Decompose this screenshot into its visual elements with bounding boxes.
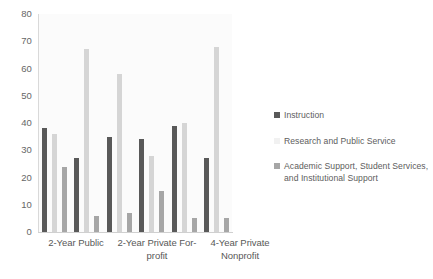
legend-swatch-icon (274, 163, 280, 169)
legend-item[interactable]: Instruction (274, 110, 432, 122)
legend-swatch-icon (274, 138, 280, 144)
y-axis-tick-label: 50 (8, 91, 32, 101)
legend-label: Instruction (284, 110, 324, 122)
bar (172, 126, 177, 232)
x-axis-category-label: 2-Year Private For-profit (114, 236, 200, 262)
y-axis-tick-label: 20 (8, 173, 32, 183)
bar (107, 137, 112, 232)
y-axis-tick-label: 80 (8, 9, 32, 19)
y-axis-tick-label: 30 (8, 145, 32, 155)
bar (117, 74, 122, 232)
bar (139, 139, 144, 232)
legend-label: Academic Support, Student Services, and … (284, 161, 432, 184)
legend-swatch-icon (274, 112, 280, 118)
bar (52, 134, 57, 232)
bar (42, 128, 47, 232)
bar (204, 158, 209, 232)
y-axis-tick-label: 0 (8, 227, 32, 237)
bar (224, 218, 229, 232)
bar (62, 167, 67, 232)
bars-layer (38, 14, 233, 232)
y-axis-tick-label: 10 (8, 200, 32, 210)
bar (214, 47, 219, 232)
bar-chart: 01020304050607080 2-Year Public2-Year Pr… (0, 0, 433, 279)
legend-item[interactable]: Research and Public Service (274, 136, 432, 148)
bar (84, 49, 89, 232)
bar (182, 123, 187, 232)
bar (192, 218, 197, 232)
y-axis-tick-label: 60 (8, 64, 32, 74)
bar (74, 158, 79, 232)
x-axis-line (38, 232, 233, 233)
y-axis-tick-label: 70 (8, 36, 32, 46)
bar (127, 213, 132, 232)
x-axis-category-label: 4-Year Private Nonprofit (200, 236, 280, 262)
legend-item[interactable]: Academic Support, Student Services, and … (274, 161, 432, 184)
x-axis-labels: 2-Year Public2-Year Private For-profit4-… (30, 236, 245, 278)
x-axis-category-label: 2-Year Public (34, 236, 118, 249)
bar (159, 191, 164, 232)
bar (94, 216, 99, 232)
bar (149, 156, 154, 232)
legend-label: Research and Public Service (284, 136, 396, 148)
chart-legend: InstructionResearch and Public ServiceAc… (274, 110, 432, 198)
y-axis-tick-label: 40 (8, 118, 32, 128)
